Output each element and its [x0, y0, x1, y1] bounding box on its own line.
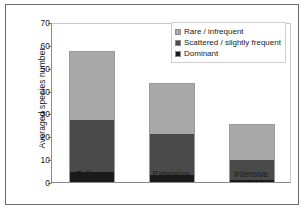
legend-item-label: Scattered / slightly frequent	[184, 38, 281, 47]
bar-segment	[70, 52, 114, 120]
y-axis-tick-label: 50	[10, 64, 50, 74]
legend-item: Rare / infrequent	[175, 26, 281, 37]
bar-extensive	[149, 83, 195, 182]
legend-item: Scattered / slightly frequent	[175, 37, 281, 48]
y-axis-tick-label: 30	[10, 109, 50, 119]
y-axis-tick-label: 60	[10, 41, 50, 51]
bar-segment	[150, 84, 194, 134]
y-axis-tick-label: 40	[10, 87, 50, 97]
x-axis-tick-label: Extensive	[126, 169, 216, 179]
x-axis-tick-label: Fallows	[46, 169, 136, 179]
bar-segment	[230, 180, 274, 182]
y-axis-tick-label: 70	[10, 18, 50, 28]
y-axis-tick-label: 20	[10, 132, 50, 142]
legend-item: Dominant	[175, 48, 281, 59]
legend-item-label: Rare / infrequent	[184, 27, 244, 36]
bar-segment	[230, 125, 274, 160]
legend-swatch-icon	[175, 51, 181, 57]
y-axis-tick-label: 0	[10, 178, 50, 188]
legend: Rare / infrequentScattered / slightly fr…	[171, 22, 286, 63]
bar-fallows	[69, 51, 115, 182]
figure-border: Averaged species number 010203040506070 …	[5, 4, 299, 205]
y-axis-tick-label: 10	[10, 155, 50, 165]
x-axis-tick-label: Intensive	[206, 169, 296, 179]
bar-segment	[70, 120, 114, 172]
figure: Averaged species number 010203040506070 …	[0, 0, 305, 210]
legend-swatch-icon	[175, 29, 181, 35]
legend-swatch-icon	[175, 40, 181, 46]
legend-item-label: Dominant	[184, 49, 218, 58]
